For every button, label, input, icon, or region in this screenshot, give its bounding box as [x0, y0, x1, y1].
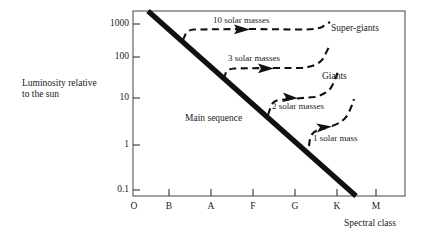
plot-frame [133, 11, 405, 196]
y-axis-ticks [133, 24, 140, 190]
y-tick-label-1: 1 [97, 139, 129, 150]
track-10-segment-a [183, 29, 244, 40]
x-tick-label-K: K [332, 201, 342, 212]
annotation-2-solar-masses: 2 solar masses [272, 101, 324, 112]
annotation-1-solar-mass: 1 solar mass [313, 133, 358, 144]
x-tick-label-G: G [290, 201, 300, 212]
track-3-segment-b [273, 44, 330, 68]
track-1-segment-b [332, 99, 354, 126]
x-axis-title: Spectral class [344, 218, 396, 229]
y-tick-label-100: 100 [97, 51, 129, 62]
main-sequence-line [148, 11, 356, 196]
region-label-super-giants: Super-giants [331, 23, 379, 34]
x-tick-label-M: M [371, 201, 381, 212]
y-axis-title-line1: Luminosity relative [22, 78, 117, 89]
y-tick-label-0.1: 0.1 [97, 184, 129, 195]
region-label-giants: Giants [322, 71, 347, 82]
track-1-arrowhead [316, 123, 332, 132]
y-axis-title-line2: to the sun [22, 89, 117, 100]
x-tick-label-B: B [164, 201, 174, 212]
annotation-10-solar-masses: 10 solar masses [213, 15, 270, 26]
x-tick-label-F: F [248, 201, 258, 212]
x-tick-label-A: A [206, 201, 216, 212]
annotation-main-sequence: Main sequence [185, 113, 242, 124]
annotation-3-solar-masses: 3 solar masses [228, 53, 280, 64]
x-tick-label-O: O [129, 201, 139, 212]
track-3-arrowhead [258, 64, 274, 74]
x-axis-ticks [169, 189, 376, 196]
y-axis-title: Luminosity relative to the sun [22, 78, 117, 100]
hr-diagram-figure: 1000 100 10 1 0.1 O B A F G K M Luminosi… [0, 0, 428, 240]
y-tick-label-1000: 1000 [97, 18, 129, 29]
